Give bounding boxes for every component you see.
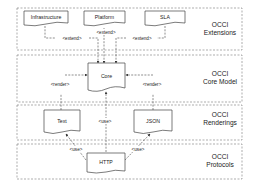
render-label-left: <render>: [51, 82, 70, 87]
node-sla: SLA: [145, 11, 185, 26]
node-core: Core: [88, 63, 125, 91]
node-infrastructure-label: Infrastructure: [31, 14, 62, 20]
extend-infra-line: [45, 26, 56, 38]
use-label-mid: <use>: [99, 119, 112, 124]
extend-sla-line: [157, 26, 165, 38]
node-http-label: HTTP: [99, 159, 113, 165]
node-core-label: Core: [101, 73, 112, 79]
layer-protocols-subtitle: Protocols: [206, 161, 234, 168]
layer-core-subtitle: Core Model: [203, 78, 238, 85]
node-infrastructure: Infrastructure: [24, 11, 68, 26]
node-text: Text: [44, 110, 80, 134]
extend-label-left: <extend>: [62, 36, 81, 41]
layer-extensions-subtitle: Extensions: [204, 29, 237, 36]
node-sla-label: SLA: [160, 14, 170, 20]
extend-infra-to-core: [89, 38, 98, 63]
use-label-left: <use>: [70, 147, 83, 152]
node-platform: Platform: [84, 11, 125, 26]
layer-renderings-subtitle: Renderings: [203, 119, 237, 127]
layer-protocols-title: OCCI: [212, 153, 229, 160]
layer-renderings-title: OCCI: [212, 111, 229, 118]
layer-extensions-title: OCCI: [212, 21, 229, 28]
node-json: JSON: [134, 110, 172, 134]
extend-label-right: <extend>: [132, 36, 151, 41]
occi-architecture-diagram: OCCI Extensions OCCI Core Model OCCI Ren…: [0, 0, 255, 191]
node-http: HTTP: [87, 153, 125, 173]
extend-sla-to-core: [116, 38, 126, 63]
use-label-right: <use>: [132, 147, 145, 152]
node-platform-label: Platform: [95, 14, 114, 20]
extend-label-mid: <extend>: [96, 30, 115, 35]
node-json-label: JSON: [146, 118, 160, 124]
node-text-label: Text: [57, 118, 67, 124]
layer-core-title: OCCI: [212, 70, 229, 77]
layer-core-model: OCCI Core Model: [17, 55, 242, 102]
render-label-right: <render>: [143, 82, 162, 87]
